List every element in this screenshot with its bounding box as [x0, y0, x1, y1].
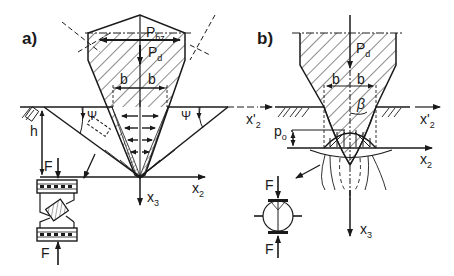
axis-symbol: x'	[246, 111, 256, 127]
axis-symbol: x'	[420, 111, 430, 127]
force-pd-label-b: Pd	[356, 41, 370, 55]
force-symbol: P	[146, 24, 155, 40]
angle-psi-left-label: Ψ	[87, 110, 97, 122]
force-pbz-label: Pbz	[146, 25, 165, 39]
axis-subscript: 2	[256, 120, 261, 130]
axis-symbol: x	[192, 180, 199, 196]
pressure-subscript: o	[282, 132, 287, 142]
axis-x2-label-a: x2	[192, 181, 204, 195]
force-f-top-label-b: F	[265, 178, 274, 192]
force-f-bottom-label-b: F	[265, 242, 274, 256]
axis-subscript: 3	[367, 230, 372, 240]
axis-x3-label-a: x3	[147, 190, 159, 204]
axis-x3-label-b: x3	[360, 222, 372, 236]
panel-a-drawing	[20, 15, 228, 265]
diagram-canvas	[0, 0, 454, 276]
half-width-right-label: b	[148, 72, 156, 86]
pressure-p0-label: po	[274, 124, 287, 138]
axis-subscript: 3	[154, 198, 159, 208]
axis-x2-label-b: x2	[420, 152, 432, 166]
axis-symbol: x	[147, 189, 154, 205]
force-f-top-label-a: F	[44, 159, 53, 173]
panel-a-label: a)	[22, 30, 37, 47]
force-symbol: P	[148, 44, 157, 60]
pressure-symbol: p	[274, 123, 282, 139]
axis-symbol: x	[420, 151, 427, 167]
force-subscript: d	[157, 53, 162, 63]
panel-b-label: b)	[257, 30, 273, 47]
force-symbol: P	[356, 40, 365, 56]
axis-subscript: 2	[430, 120, 435, 130]
panel-b-drawing	[227, 15, 440, 258]
axis-x2-prime-right-label: x'2	[420, 112, 435, 126]
axis-x2-prime-left-label: x'2	[246, 112, 261, 126]
half-width-left-label: b	[120, 72, 128, 86]
force-subscript: bz	[155, 33, 165, 43]
half-width-left-label-b: b	[332, 72, 340, 86]
depth-h-label: h	[30, 124, 38, 138]
angle-psi-right-label: Ψ	[181, 110, 191, 122]
half-width-right-label-b: b	[357, 72, 365, 86]
force-pd-label: Pd	[148, 45, 162, 59]
force-f-bottom-label-a: F	[41, 246, 50, 260]
angle-beta-label: β	[357, 97, 365, 111]
axis-subscript: 2	[199, 189, 204, 199]
force-subscript: d	[365, 49, 370, 59]
axis-subscript: 2	[427, 160, 432, 170]
axis-symbol: x	[360, 221, 367, 237]
